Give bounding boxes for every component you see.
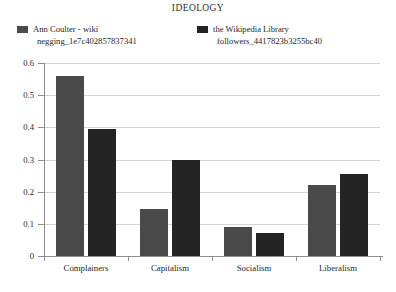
legend-label-series-1: Ann Coulter - wiki negging_1e7c402857837…	[33, 24, 137, 47]
legend-entry-series-2[interactable]: the Wikipedia Library followers_4417823b…	[197, 24, 322, 47]
legend-label-series-2-line1: the Wikipedia Library	[213, 24, 289, 34]
legend-label-series-1-line1: Ann Coulter - wiki	[33, 24, 98, 34]
plot-area	[44, 63, 380, 256]
bar-complainers-series-2[interactable]	[88, 129, 116, 256]
y-tick-label: 0.2	[0, 187, 34, 197]
x-tick-label-capitalism: Capitalism	[128, 263, 212, 273]
y-tick-label: 0.1	[0, 219, 34, 229]
y-tick-label: 0.3	[0, 155, 34, 165]
bar-liberalism-series-1[interactable]	[308, 185, 336, 256]
legend-entry-series-1[interactable]: Ann Coulter - wiki negging_1e7c402857837…	[17, 24, 137, 47]
legend-label-series-2: the Wikipedia Library followers_4417823b…	[213, 24, 322, 47]
y-tick-label: 0	[0, 251, 34, 261]
x-tick-label-socialism: Socialism	[212, 263, 296, 273]
bar-liberalism-series-2[interactable]	[340, 174, 368, 256]
legend-swatch-series-1	[17, 26, 28, 33]
bar-complainers-series-1[interactable]	[56, 76, 84, 256]
bar-chart: IDEOLOGY Ann Coulter - wiki negging_1e7c…	[0, 0, 396, 292]
x-tick-mark	[212, 256, 213, 261]
y-tick-label: 0.5	[0, 90, 34, 100]
y-tick-label: 0.6	[0, 58, 34, 68]
x-tick-mark	[44, 256, 45, 261]
chart-legend: Ann Coulter - wiki negging_1e7c402857837…	[0, 24, 396, 52]
bar-socialism-series-1[interactable]	[224, 227, 252, 256]
x-tick-label-liberalism: Liberalism	[296, 263, 380, 273]
x-tick-mark	[380, 256, 381, 261]
x-tick-label-complainers: Complainers	[44, 263, 128, 273]
legend-label-series-1-line2: negging_1e7c402857837341	[33, 36, 137, 48]
bar-capitalism-series-2[interactable]	[172, 160, 200, 257]
bar-socialism-series-2[interactable]	[256, 233, 284, 256]
chart-title: IDEOLOGY	[0, 3, 396, 13]
legend-swatch-series-2	[197, 26, 208, 33]
y-tick-label: 0.4	[0, 122, 34, 132]
x-axis-line	[38, 256, 383, 257]
x-tick-mark	[128, 256, 129, 261]
bar-capitalism-series-1[interactable]	[140, 209, 168, 256]
legend-label-series-2-line2: followers_4417823b3255bc40	[213, 36, 322, 48]
x-tick-mark	[296, 256, 297, 261]
